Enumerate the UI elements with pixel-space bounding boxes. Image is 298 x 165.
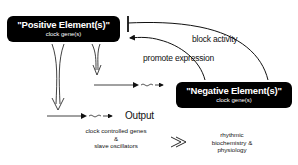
positive-element-subtitle: clock gene(s)	[7, 30, 120, 38]
negative-element-subtitle: clock gene(s)	[176, 96, 292, 104]
negative-element-box: "Negative Element(s)" clock gene(s)	[176, 82, 292, 108]
leads-to-icon	[171, 137, 186, 147]
output-label: Output	[125, 110, 154, 121]
negative-element-title: "Negative Element(s)"	[176, 85, 292, 96]
positive-element-box: "Positive Element(s)" clock gene(s)	[7, 16, 120, 42]
clock-controlled-genes-text: clock controlled genes & slave oscillato…	[72, 127, 160, 150]
squiggle-icon	[141, 84, 153, 86]
block-activity-label: block activity	[192, 34, 237, 44]
squiggle-icon	[89, 115, 101, 117]
promote-expression-label: promote expression	[143, 53, 214, 63]
rhythmic-physiology-text: rhythmic biochemistry & physiology	[197, 131, 267, 154]
block-activity-line	[128, 22, 268, 80]
long-down-arrow-icon	[52, 44, 64, 104]
positive-element-title: "Positive Element(s)"	[7, 19, 120, 30]
